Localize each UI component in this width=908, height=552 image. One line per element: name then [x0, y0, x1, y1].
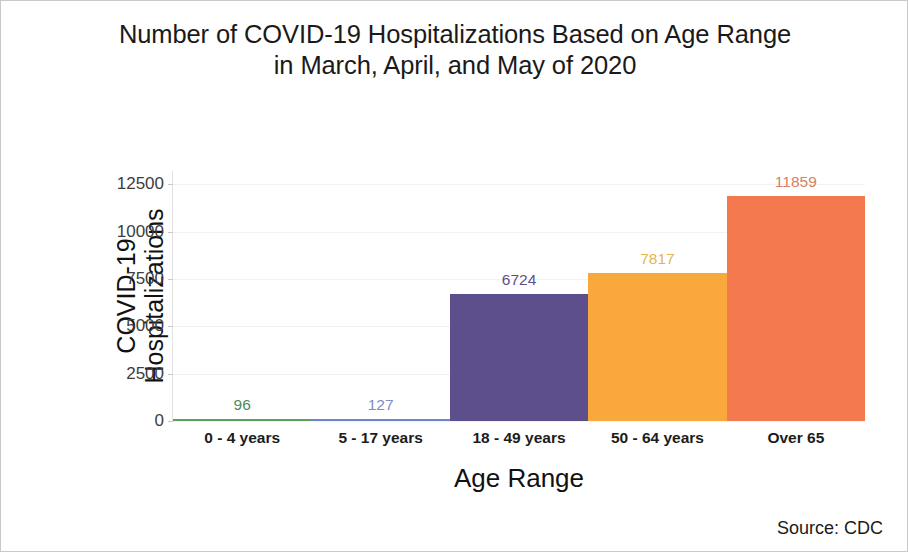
x-axis-tick-labels: 0 - 4 years5 - 17 years18 - 49 years50 -…	[173, 429, 865, 447]
bar-slot: 6724	[450, 171, 588, 421]
x-axis-title: Age Range	[173, 463, 865, 494]
y-axis-tick-label: 12500	[117, 174, 164, 194]
y-axis-tick-label: 10000	[117, 222, 164, 242]
x-axis-tick-label: 0 - 4 years	[173, 429, 311, 447]
bar-value-label: 6724	[450, 271, 588, 289]
bar-series: 961276724781711859	[173, 171, 865, 421]
y-axis-tick-label: 2500	[126, 364, 164, 384]
bar[interactable]	[450, 294, 588, 421]
chart-title-line-2: in March, April, and May of 2020	[1, 50, 908, 81]
bar-slot: 96	[173, 171, 311, 421]
bar-slot: 127	[311, 171, 449, 421]
source-note: Source: CDC	[777, 518, 883, 539]
y-axis-tick-label: 0	[155, 411, 164, 431]
x-axis-tick-label: 5 - 17 years	[311, 429, 449, 447]
y-axis-tick-label: 5000	[126, 316, 164, 336]
bar-value-label: 127	[311, 396, 449, 414]
y-axis-tick-mark	[168, 421, 173, 422]
x-axis-tick-label: Over 65	[727, 429, 865, 447]
bar[interactable]	[727, 196, 865, 421]
bar[interactable]	[173, 419, 311, 421]
x-axis-tick-label: 50 - 64 years	[588, 429, 726, 447]
chart-figure: Number of COVID-19 Hospitalizations Base…	[0, 0, 908, 552]
bar-slot: 7817	[588, 171, 726, 421]
plot-area: 02500500075001000012500 9612767247817118…	[173, 171, 865, 421]
bar-value-label: 11859	[727, 173, 865, 191]
y-axis-tick-label: 7500	[126, 269, 164, 289]
gridline	[173, 421, 865, 422]
bar-value-label: 96	[173, 396, 311, 414]
bar-value-label: 7817	[588, 250, 726, 268]
bar[interactable]	[588, 273, 726, 421]
x-axis-tick-label: 18 - 49 years	[450, 429, 588, 447]
chart-title: Number of COVID-19 Hospitalizations Base…	[1, 19, 908, 81]
chart-title-line-1: Number of COVID-19 Hospitalizations Base…	[1, 19, 908, 50]
bar[interactable]	[311, 419, 449, 421]
bar-slot: 11859	[727, 171, 865, 421]
